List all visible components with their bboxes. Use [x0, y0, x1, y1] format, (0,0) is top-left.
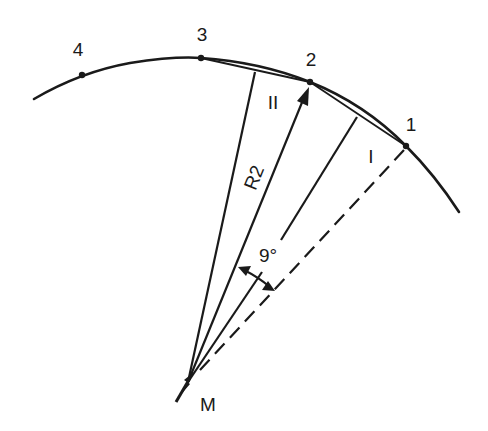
point-1-label: 1 — [406, 114, 417, 135]
radius-r2-arrow — [188, 100, 303, 382]
arc-construction-diagram: 4 3 2 1 II I R2 9° M — [0, 0, 488, 431]
point-2-dot — [307, 79, 313, 85]
angle-arrowhead-left-icon — [238, 266, 251, 276]
point-1-dot — [403, 143, 409, 149]
diagram-canvas: 4 3 2 1 II I R2 9° M — [0, 0, 488, 431]
chord-3-2 — [201, 58, 310, 82]
arrowhead-r2-icon — [297, 87, 309, 106]
point-3-dot — [198, 55, 204, 61]
radius-to-chord-2-1-midpoint — [281, 117, 357, 240]
center-m-label: M — [200, 394, 216, 415]
angle-label: 9° — [259, 245, 277, 266]
point-4-dot — [79, 72, 85, 78]
center-tick — [176, 378, 190, 402]
chord-2-1 — [310, 82, 406, 146]
point-4-label: 4 — [73, 39, 84, 60]
point-2-label: 2 — [306, 49, 317, 70]
point-3-label: 3 — [197, 24, 208, 45]
radius-to-chord-3-2-midpoint — [188, 72, 255, 382]
radius-r2-label: R2 — [240, 162, 269, 192]
section-II-label: II — [268, 92, 279, 113]
section-I-label: I — [368, 146, 373, 167]
circular-arc — [34, 58, 459, 212]
